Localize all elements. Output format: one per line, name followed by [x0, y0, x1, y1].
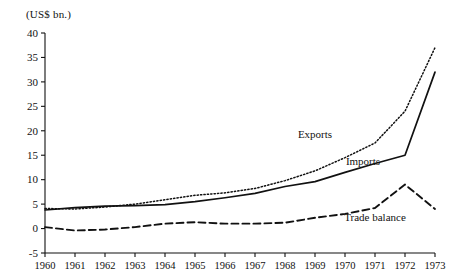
series-label-exports: Exports — [298, 128, 332, 140]
series-label-trade-balance: Trade balance — [344, 211, 406, 223]
y-tick-label: 30 — [27, 76, 39, 88]
x-tick-label: 1973 — [425, 260, 446, 271]
x-tick-label: 1972 — [395, 260, 416, 271]
data-series-group — [45, 48, 435, 231]
y-tick-label: 25 — [27, 100, 39, 112]
x-tick-label: 1963 — [125, 260, 146, 271]
x-tick-label: 1970 — [335, 260, 356, 271]
y-tick-label: 5 — [33, 198, 39, 210]
x-tick-label: 1971 — [365, 260, 386, 271]
x-tick-label: 1965 — [185, 260, 206, 271]
x-tick-label: 1966 — [215, 260, 236, 271]
x-tick-label: 1961 — [65, 260, 86, 271]
y-tick-label: -5 — [29, 247, 39, 259]
x-axis: 1960196119621963196419651966196719681969… — [35, 253, 446, 271]
y-axis: 4035302520151050-5 — [27, 27, 45, 259]
series-line-imports — [45, 72, 435, 210]
series-label-imports: Imports — [346, 155, 380, 167]
series-annotations: ExportsImportsTrade balance — [298, 128, 406, 223]
y-tick-label: 0 — [33, 222, 39, 234]
x-tick-label: 1967 — [245, 260, 266, 271]
x-tick-label: 1969 — [305, 260, 326, 271]
y-tick-label: 40 — [27, 27, 39, 39]
y-tick-label: 10 — [27, 173, 39, 185]
series-line-exports — [45, 48, 435, 209]
x-tick-label: 1968 — [275, 260, 296, 271]
line-chart-plot: 4035302520151050-5 196019611962196319641… — [0, 0, 460, 279]
y-tick-label: 20 — [27, 125, 39, 137]
x-tick-label: 1962 — [95, 260, 116, 271]
y-tick-label: 35 — [27, 51, 39, 63]
chart-container: (US$ bn.) 4035302520151050-5 19601961196… — [0, 0, 460, 279]
x-tick-label: 1960 — [35, 260, 56, 271]
y-tick-label: 15 — [27, 149, 39, 161]
x-tick-label: 1964 — [155, 260, 177, 271]
